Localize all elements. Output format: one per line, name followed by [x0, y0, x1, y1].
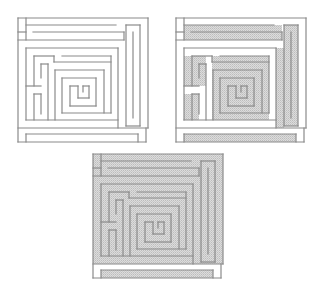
maze-2-drawing — [175, 17, 307, 143]
maze-2-shaded-regions — [184, 25, 298, 142]
maze-3-shaded-regions — [93, 154, 223, 278]
maze-1-drawing — [17, 17, 149, 143]
maze-1 — [17, 17, 149, 143]
maze-3 — [92, 153, 224, 279]
maze-3-drawing — [92, 153, 224, 279]
maze-2 — [175, 17, 307, 143]
